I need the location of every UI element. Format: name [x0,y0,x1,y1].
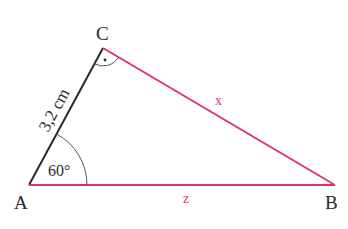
angle-label-a: 60° [48,162,70,179]
side-cb [103,48,335,185]
triangle-diagram: A B C x z 3,2 cm 60° [0,0,348,229]
right-angle-dot [104,59,107,62]
side-label-ac: 3,2 cm [35,85,74,135]
vertex-label-a: A [14,192,28,213]
side-label-z: z [183,191,189,206]
side-label-x: x [215,93,222,108]
vertex-label-c: C [96,23,109,44]
vertex-label-b: B [325,192,338,213]
